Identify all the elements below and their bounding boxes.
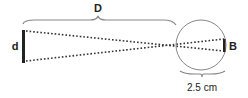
ray-bottom	[26, 39, 224, 61]
ray-top	[26, 31, 224, 51]
distance-label: D	[94, 2, 102, 14]
ray-lines	[26, 31, 224, 61]
eye-diameter-brace	[180, 71, 225, 77]
eye-optics-diagram: D d B 2.5 cm	[0, 0, 248, 98]
image-bar	[223, 39, 226, 52]
eye-diameter-label: 2.5 cm	[187, 82, 217, 93]
image-size-label: B	[229, 40, 237, 52]
eye-circle	[176, 20, 226, 70]
distance-brace	[23, 16, 176, 25]
object-bar	[22, 30, 25, 63]
object-size-label: d	[12, 40, 19, 52]
